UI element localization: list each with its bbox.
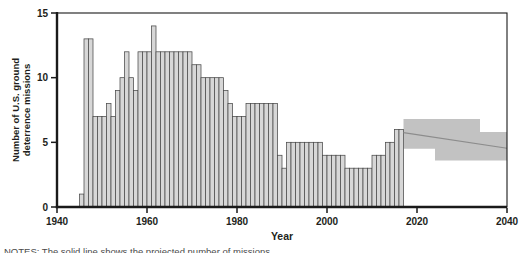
bar-1951 (107, 104, 112, 207)
bar-2016 (399, 129, 404, 207)
bar-1998 (318, 142, 323, 207)
bar-1985 (260, 104, 265, 207)
bar-1973 (206, 78, 211, 207)
bar-1984 (255, 104, 260, 207)
bar-1966 (174, 52, 179, 207)
figure-notes: NOTES: The solid line shows the projecte… (4, 246, 304, 253)
deterrence-missions-chart: 194019601980200020202040051015 Number of… (0, 0, 526, 253)
bar-1959 (143, 52, 148, 207)
bar-1996 (309, 142, 314, 207)
bar-1977 (224, 91, 229, 207)
bar-1963 (161, 52, 166, 207)
bar-1988 (273, 104, 278, 207)
bar-1990 (282, 168, 287, 207)
x-tick-label: 1940 (46, 216, 69, 227)
bar-2011 (377, 155, 382, 207)
bar-2005 (350, 168, 355, 207)
bar-1989 (278, 155, 283, 207)
bar-2007 (359, 168, 364, 207)
chart-canvas: 194019601980200020202040051015 (0, 0, 526, 253)
bar-1994 (300, 142, 305, 207)
bar-2015 (395, 129, 400, 207)
bar-1972 (201, 78, 206, 207)
bar-1997 (314, 142, 319, 207)
bars (80, 26, 404, 207)
bar-1949 (98, 116, 103, 207)
x-tick-label: 1960 (136, 216, 159, 227)
bar-1958 (138, 52, 143, 207)
bar-2008 (363, 168, 368, 207)
y-axis-title-line2: deterrence missions (21, 58, 32, 162)
bar-2001 (332, 155, 337, 207)
bar-1992 (291, 142, 296, 207)
bar-1962 (156, 52, 161, 207)
x-tick-label: 2040 (496, 216, 519, 227)
projection-band-shape (404, 119, 508, 160)
bar-1948 (93, 116, 98, 207)
bar-1991 (287, 142, 292, 207)
x-axis-title: Year (271, 230, 293, 242)
bar-1980 (237, 116, 242, 207)
x-tick-label: 2000 (316, 216, 339, 227)
bar-2004 (345, 168, 350, 207)
x-tick-label: 1980 (226, 216, 249, 227)
bar-2014 (390, 142, 395, 207)
bar-1968 (183, 52, 188, 207)
bar-2003 (341, 155, 346, 207)
y-tick-label: 0 (42, 202, 48, 213)
bar-2013 (386, 142, 391, 207)
bar-1976 (219, 78, 224, 207)
y-tick-label: 5 (42, 137, 48, 148)
bar-1960 (147, 52, 152, 207)
bar-1950 (102, 116, 107, 207)
y-axis-title: Number of U.S. ground deterrence mission… (10, 58, 32, 162)
y-axis-title-line1: Number of U.S. ground (10, 58, 21, 162)
bar-2006 (354, 168, 359, 207)
bar-1945 (80, 194, 85, 207)
bar-1965 (170, 52, 175, 207)
bar-1956 (129, 78, 134, 207)
bar-2012 (381, 155, 386, 207)
bar-2010 (372, 155, 377, 207)
bar-1974 (210, 78, 215, 207)
bar-1953 (116, 91, 121, 207)
bar-1947 (89, 39, 94, 207)
bar-1995 (305, 142, 310, 207)
bar-1975 (215, 78, 220, 207)
bar-1967 (179, 52, 184, 207)
bar-1964 (165, 52, 170, 207)
bar-1957 (134, 91, 139, 207)
bar-1970 (192, 65, 197, 207)
bar-2009 (368, 168, 373, 207)
bar-1981 (242, 116, 247, 207)
bar-1971 (197, 65, 202, 207)
bar-1999 (323, 155, 328, 207)
bar-1978 (228, 104, 233, 207)
bar-2000 (327, 155, 332, 207)
bar-1955 (125, 52, 130, 207)
bar-1982 (246, 104, 251, 207)
bar-1969 (188, 52, 193, 207)
bar-1986 (264, 104, 269, 207)
bar-1961 (152, 26, 157, 207)
bar-1993 (296, 142, 301, 207)
bar-1946 (84, 39, 89, 207)
bar-1952 (111, 116, 116, 207)
x-tick-label: 2020 (406, 216, 429, 227)
bar-2002 (336, 155, 341, 207)
bar-1954 (120, 78, 125, 207)
projection-band (404, 119, 508, 160)
y-tick-label: 15 (37, 8, 49, 19)
y-tick-label: 10 (37, 72, 49, 83)
bar-1983 (251, 104, 256, 207)
bar-1979 (233, 116, 238, 207)
bar-1987 (269, 104, 274, 207)
